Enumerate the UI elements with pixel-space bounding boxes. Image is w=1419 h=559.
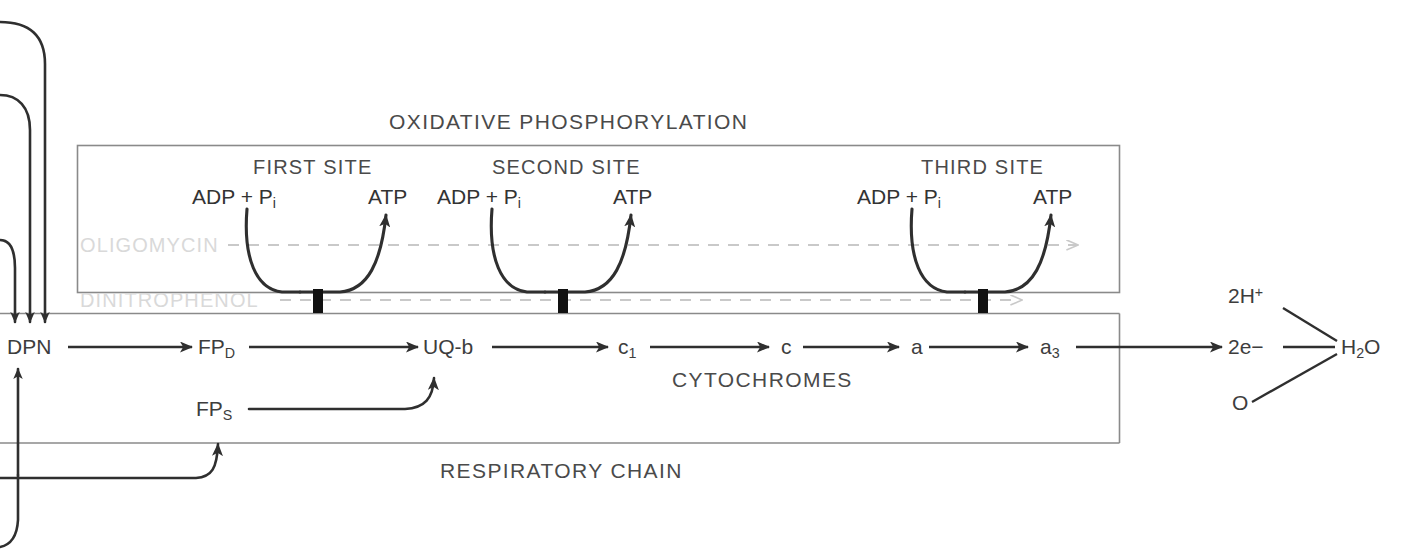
terminal-water: H2O [1341, 336, 1380, 360]
substrate-curve-3 [0, 240, 15, 322]
terminal-protons-text: 2H [1228, 284, 1255, 307]
chain-carrier-fps-label: FP [196, 397, 223, 420]
site-2-coupling-curve [491, 209, 631, 292]
site-1-coupling-curve [246, 209, 386, 292]
site-1-substrate-subscript: i [273, 195, 276, 211]
chain-carrier-c-label: c [781, 335, 792, 358]
site-3-dinitrophenol-block [978, 289, 988, 313]
respiratory-chain-box [0, 314, 1120, 444]
chain-carrier-c1: c1 [618, 336, 636, 360]
chain-carrier-dpn: DPN [7, 336, 51, 360]
terminal-protons: 2H+ [1228, 285, 1263, 306]
chain-carrier-dpn-label: DPN [7, 335, 51, 358]
site-1-dinitrophenol-block [313, 289, 323, 313]
chain-carrier-a3-label: a [1040, 335, 1052, 358]
site-1-substrate-text: ADP + P [192, 185, 273, 208]
site-2-substrate: ADP + Pi [437, 186, 521, 210]
chain-carrier-fpd-label: FP [198, 335, 225, 358]
terminal-protons-superscript: + [1255, 284, 1263, 300]
site-title-first: FIRST SITE [253, 157, 372, 177]
diagram-vector-layer [0, 0, 1419, 559]
chain-carrier-uqb-label: UQ-b [423, 335, 473, 358]
chain-carrier-uqb: UQ-b [423, 336, 473, 360]
terminal-electrons: 2e− [1228, 336, 1264, 357]
page-title: OXIDATIVE PHOSPHORYLATION [389, 111, 748, 132]
cytochromes-label: CYTOCHROMES [672, 369, 853, 390]
chain-carrier-fpd: FPD [198, 336, 235, 360]
site-3-substrate-subscript: i [938, 195, 941, 211]
substrate-curve-1 [0, 22, 45, 322]
arrow-substrate-to-fps [0, 444, 218, 478]
chain-carrier-a: a [911, 336, 923, 360]
fps-branch-lines [0, 378, 434, 478]
respiratory-chain-label: RESPIRATORY CHAIN [440, 460, 683, 481]
site-2-product: ATP [613, 186, 652, 207]
terminal-water-h: H [1341, 335, 1356, 358]
site-1-product: ATP [368, 186, 407, 207]
inhibitor-label-oligomycin: OLIGOMYCIN [80, 235, 219, 255]
substrate-curve-bottom [0, 475, 18, 547]
terminal-water-subscript: 2 [1356, 345, 1364, 361]
chain-carrier-c1-label: c [618, 335, 629, 358]
inhibitor-label-dinitrophenol: DINITROPHENOL [80, 290, 259, 310]
chain-carrier-fps: FPS [196, 398, 232, 422]
site-3-substrate-text: ADP + P [857, 185, 938, 208]
site-2-substrate-text: ADP + P [437, 185, 518, 208]
site-2-dinitrophenol-block [558, 289, 568, 313]
water-formation-lines [1252, 308, 1337, 402]
site-3-product: ATP [1033, 186, 1072, 207]
line-2h-to-water [1283, 308, 1337, 341]
arrow-fps-to-uqb [249, 378, 434, 409]
terminal-water-o: O [1364, 335, 1380, 358]
chain-carrier-c: c [781, 336, 792, 360]
site-3-substrate: ADP + Pi [857, 186, 941, 210]
substrate-input-curves [0, 22, 45, 547]
terminal-oxygen: O [1232, 392, 1248, 413]
line-o-to-water [1252, 354, 1337, 402]
site-1-substrate: ADP + Pi [192, 186, 276, 210]
site-2-substrate-subscript: i [518, 195, 521, 211]
diagram-canvas: OXIDATIVE PHOSPHORYLATION FIRST SITE SEC… [0, 0, 1419, 559]
chain-carrier-a-label: a [911, 335, 923, 358]
site-title-third: THIRD SITE [921, 157, 1044, 177]
site-title-second: SECOND SITE [492, 157, 641, 177]
site-3-coupling-curve [911, 209, 1051, 292]
chain-carrier-a3: a3 [1040, 336, 1060, 360]
